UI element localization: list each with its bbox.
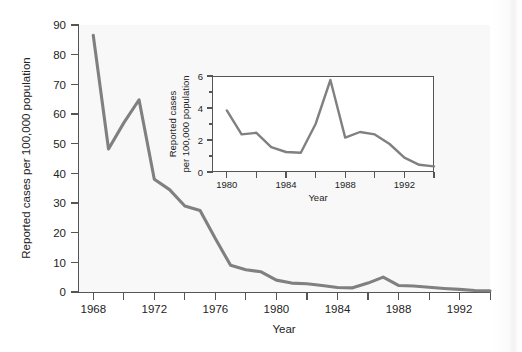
- main-x-axis: 1968 1972 1976 1980 1984 1988 1992 Year: [78, 293, 491, 336]
- main-y-tick-label: 90: [53, 19, 66, 31]
- inset-y-axis-title-line1: Reported cases: [167, 90, 178, 157]
- main-x-tick-label: 1972: [142, 303, 168, 315]
- inset-y-tick-label: 0: [198, 167, 203, 178]
- inset-y-tick-label: 2: [198, 135, 203, 146]
- main-y-axis-title: Reported cases per 100,000 population: [20, 57, 32, 258]
- main-x-tick-label: 1976: [203, 303, 229, 315]
- main-x-tick-label: 1988: [386, 303, 412, 315]
- main-x-tick-label: 1968: [81, 303, 107, 315]
- main-x-tick-label: 1984: [325, 303, 351, 315]
- inset-y-tick-label: 6: [198, 71, 203, 82]
- main-y-tick-label: 30: [53, 197, 66, 209]
- figure-panel: 90 80 70 60 50 40 30 20 10 0 Reported ca…: [0, 0, 522, 352]
- inset-x-tick-label: 1984: [275, 179, 296, 190]
- main-y-tick-label: 0: [60, 286, 66, 298]
- main-x-axis-title: Year: [272, 323, 295, 335]
- main-x-tick-label: 1992: [447, 303, 473, 315]
- inset-y-tick-label: 4: [198, 103, 203, 114]
- inset-y-axis-title-line2: per 100,000 population: [180, 75, 191, 172]
- main-y-axis: 90 80 70 60 50 40 30 20 10 0 Reported ca…: [20, 19, 79, 298]
- main-y-tick-label: 10: [53, 257, 66, 269]
- main-y-tick-label: 50: [53, 138, 66, 150]
- main-y-tick-label: 70: [53, 79, 66, 91]
- main-y-tick-label: 80: [53, 49, 66, 61]
- main-y-tick-label: 20: [53, 227, 66, 239]
- inset-x-tick-label: 1992: [394, 179, 415, 190]
- inset-x-tick-label: 1980: [216, 179, 237, 190]
- inset-x-tick-label: 1988: [335, 179, 356, 190]
- main-x-tick-label: 1980: [264, 303, 290, 315]
- main-y-tick-label: 60: [53, 108, 66, 120]
- chart-svg: 90 80 70 60 50 40 30 20 10 0 Reported ca…: [0, 0, 522, 352]
- main-y-tick-label: 40: [53, 168, 66, 180]
- inset-x-axis-title: Year: [308, 192, 327, 203]
